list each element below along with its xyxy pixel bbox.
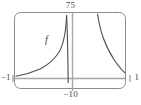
x-max-label: 1 — [135, 73, 140, 82]
y-max-label: 75 — [0, 1, 141, 10]
y-min-label: −10 — [0, 90, 141, 99]
x-min-label: −1 — [1, 73, 11, 82]
function-name-label: f — [45, 35, 48, 45]
function-plot-figure: 75 −10 −1 1 f — [0, 0, 141, 105]
